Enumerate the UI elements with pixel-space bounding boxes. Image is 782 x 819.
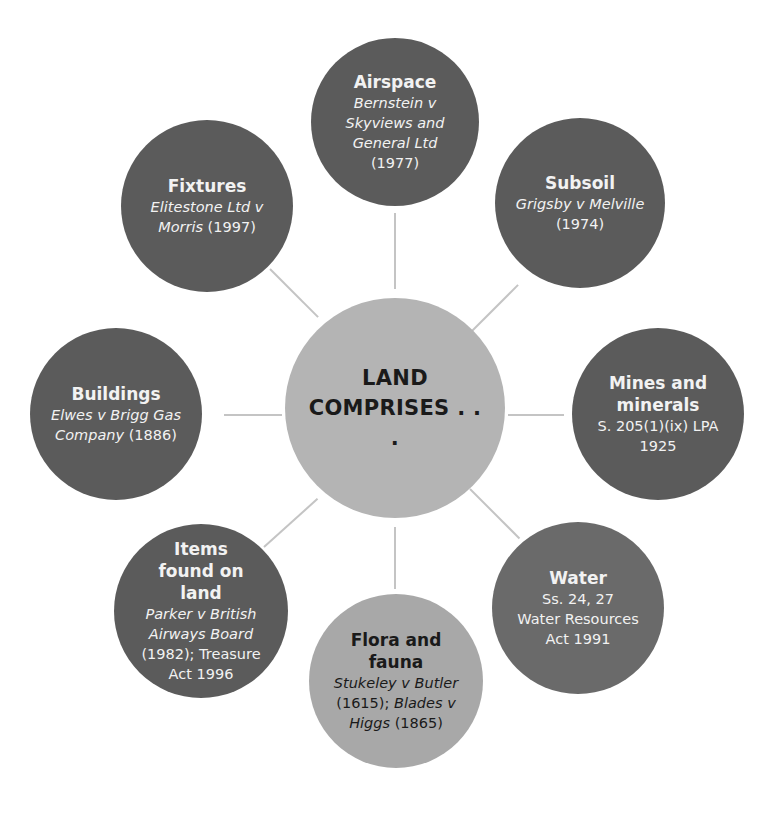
case-text: Grigsby v Melville	[516, 196, 645, 212]
statute-text: Act 1991	[546, 631, 611, 647]
center-title-line2: COMPRISES . . .	[301, 393, 489, 453]
statute-text: 1925	[640, 438, 677, 454]
case-text: Skyviews and	[345, 115, 444, 131]
node-body: Grigsby v Melville (1974)	[516, 194, 645, 234]
statute-text: Water Resources	[517, 611, 639, 627]
node-title: Buildings	[71, 383, 160, 405]
node-airspace: Airspace Bernstein v Skyviews and Genera…	[311, 38, 479, 206]
case-text: Elitestone Ltd v	[151, 199, 264, 215]
statute-text: Ss. 24, 27	[542, 591, 614, 607]
node-subsoil: Subsoil Grigsby v Melville (1974)	[495, 118, 665, 288]
case-text: Parker v British	[145, 606, 256, 622]
statute-text: Act 1996	[169, 666, 234, 682]
connector-subsoil	[469, 284, 518, 333]
node-items-found-on-land: Items found on land Parker v British Air…	[114, 524, 288, 698]
node-body: Ss. 24, 27 Water Resources Act 1991	[517, 589, 639, 649]
node-title: Airspace	[354, 71, 437, 93]
year-text: (1977)	[371, 155, 419, 171]
connector-fixtures	[269, 268, 318, 317]
case-text: Bernstein v	[354, 95, 437, 111]
year-text: (1886)	[124, 427, 177, 443]
case-text: Stukeley v Butler	[334, 675, 458, 691]
connector-mines	[508, 414, 564, 416]
case-text: Airways Board	[149, 626, 253, 642]
case-text: Elwes v Brigg Gas	[51, 407, 181, 423]
node-title: Fixtures	[168, 175, 247, 197]
statute-text: S. 205(1)(ix) LPA	[598, 418, 719, 434]
node-body: Elitestone Ltd v Morris (1997)	[151, 197, 264, 237]
node-buildings: Buildings Elwes v Brigg Gas Company (188…	[30, 328, 202, 500]
statute-text: (1982); Treasure	[141, 646, 260, 662]
node-body: Elwes v Brigg Gas Company (1886)	[51, 405, 181, 445]
center-title-line1: LAND	[362, 363, 428, 393]
node-flora-and-fauna: Flora and fauna Stukeley v Butler (1615)…	[309, 594, 483, 768]
node-body: Parker v British Airways Board (1982); T…	[141, 604, 260, 684]
year-text: (1974)	[556, 216, 604, 232]
node-body: Bernstein v Skyviews and General Ltd (19…	[345, 93, 444, 173]
year-text: (1997)	[203, 219, 256, 235]
node-water: Water Ss. 24, 27 Water Resources Act 199…	[492, 522, 664, 694]
node-title: Mines and minerals	[588, 372, 728, 416]
case-text: Morris	[158, 219, 203, 235]
connector-water	[469, 488, 520, 539]
connector-flora	[394, 527, 396, 589]
node-mines-and-minerals: Mines and minerals S. 205(1)(ix) LPA 192…	[572, 328, 744, 500]
node-title: Flora and fauna	[325, 629, 467, 673]
case-text: Blades v	[394, 695, 456, 711]
year-text: (1615);	[336, 695, 394, 711]
case-text: General Ltd	[353, 135, 438, 151]
node-fixtures: Fixtures Elitestone Ltd v Morris (1997)	[121, 120, 293, 292]
node-body: Stukeley v Butler (1615); Blades v Higgs…	[334, 673, 458, 733]
connector-buildings	[224, 414, 282, 416]
year-text: (1865)	[390, 715, 443, 731]
connector-airspace	[394, 213, 396, 289]
center-node: LAND COMPRISES . . .	[285, 298, 505, 518]
case-text: Company	[55, 427, 124, 443]
node-title: Items found on land	[130, 538, 272, 604]
land-comprises-diagram: LAND COMPRISES . . . Airspace Bernstein …	[0, 0, 782, 819]
node-body: S. 205(1)(ix) LPA 1925	[598, 416, 719, 456]
node-title: Subsoil	[545, 172, 615, 194]
case-text: Higgs	[349, 715, 390, 731]
node-title: Water	[549, 567, 607, 589]
